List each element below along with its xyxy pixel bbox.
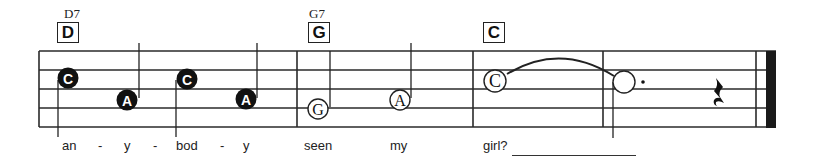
svg-text:A: A (241, 92, 251, 108)
lyric-hyphen: - (98, 139, 102, 152)
lyric-word: girl? (483, 139, 508, 152)
lyric-word: my (390, 139, 407, 152)
svg-text:C: C (182, 72, 192, 88)
quarter-rest-icon (714, 78, 724, 107)
note-dotted-half (613, 71, 645, 138)
note-a-half: A (390, 43, 411, 110)
staff-lines (39, 51, 776, 127)
music-staff: C A C A G A C (0, 0, 815, 165)
chord-box-d: D (57, 22, 79, 43)
lyric-syllable: y (243, 139, 250, 152)
chord-name-g7: G7 (309, 7, 325, 20)
svg-text:G: G (312, 101, 324, 118)
lyric-syllable: an (62, 139, 76, 152)
final-barline (766, 51, 776, 128)
lyric-syllable: y (124, 139, 131, 152)
lyric-word: seen (304, 139, 332, 152)
svg-text:C: C (63, 71, 73, 87)
chord-name-d7: D7 (64, 7, 80, 20)
note-a-filled-1: A (117, 43, 140, 111)
tie-arc (507, 58, 614, 76)
lyric-syllable: bod (176, 139, 198, 152)
note-c-half: C (484, 70, 506, 92)
lyric-hyphen: - (153, 139, 157, 152)
svg-text:C: C (489, 71, 501, 91)
svg-text:A: A (394, 92, 406, 109)
chord-box-g: G (308, 22, 330, 43)
note-g-half: G (308, 51, 330, 119)
svg-text:A: A (122, 93, 132, 109)
note-a-filled-2: A (236, 43, 258, 110)
lyric-hyphen: - (220, 139, 224, 152)
chord-box-c: C (483, 22, 505, 43)
lyric-extender-line (512, 155, 636, 156)
